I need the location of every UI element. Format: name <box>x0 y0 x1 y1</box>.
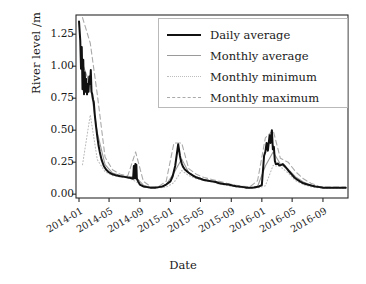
legend-label-monthly-maximum: Monthly maximum <box>210 92 319 104</box>
legend-swatch-monthly-minimum <box>167 71 201 83</box>
legend-item-monthly-maximum: Monthly maximum <box>159 87 347 108</box>
y-tick-1.00: 1.00 <box>51 59 74 71</box>
y-tick-0.00: 0.00 <box>51 187 74 199</box>
x-axis-label: Date <box>0 258 366 272</box>
legend-item-daily-average: Daily average <box>159 24 347 45</box>
legend-swatch-daily-average <box>167 29 201 41</box>
y-axis-label: River level /m <box>29 0 43 133</box>
legend-label-daily-average: Daily average <box>210 29 290 41</box>
legend-item-monthly-minimum: Monthly minimum <box>159 66 347 87</box>
legend-item-monthly-average: Monthly average <box>159 45 347 66</box>
legend-label-monthly-minimum: Monthly minimum <box>210 71 317 83</box>
legend-swatch-monthly-average <box>167 50 201 62</box>
y-tick-1.25: 1.25 <box>51 27 74 39</box>
y-tick-0.50: 0.50 <box>51 123 74 135</box>
chart-legend: Daily average Monthly average Monthly mi… <box>158 18 348 108</box>
y-tick-0.25: 0.25 <box>51 155 74 167</box>
figure: River level /m Date 0.000.250.500.751.00… <box>0 0 366 284</box>
legend-label-monthly-average: Monthly average <box>210 50 309 62</box>
legend-swatch-monthly-maximum <box>167 92 201 104</box>
y-tick-0.75: 0.75 <box>51 91 74 103</box>
